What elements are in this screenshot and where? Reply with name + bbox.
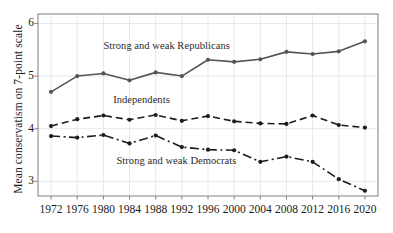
series-annotations: Strong and weak RepublicansIndependentsS… (0, 0, 393, 233)
series-label: Strong and weak Democrats (116, 155, 236, 166)
series-label: Strong and weak Republicans (103, 40, 229, 51)
chart-figure: Mean conservatism on 7-point scale 3456 … (0, 0, 393, 233)
series-label: Independents (113, 94, 170, 105)
